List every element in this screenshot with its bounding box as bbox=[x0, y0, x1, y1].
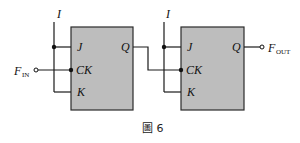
input-label-sub: IN bbox=[22, 71, 29, 79]
flip-flop-2-q-label: Q bbox=[232, 40, 241, 54]
output-label-sub: OUT bbox=[276, 48, 291, 56]
input-terminal-icon bbox=[34, 68, 38, 72]
flip-flop-2-k-label: K bbox=[186, 85, 196, 99]
clock-junction-dot bbox=[179, 68, 183, 72]
flip-flop-2-ck-label: CK bbox=[186, 63, 203, 77]
flip-flop-2-supply-label: I bbox=[165, 7, 171, 21]
flip-flop-1-q-label: Q bbox=[121, 40, 130, 54]
flip-flop-1-supply-label: I bbox=[56, 7, 62, 21]
output-label-main: F bbox=[267, 41, 276, 55]
figure-caption: 圖 6 bbox=[142, 122, 164, 135]
junction-dot bbox=[162, 45, 166, 49]
flip-flop-1-k-label: K bbox=[76, 85, 86, 99]
flip-flop-2: I J CK K Q bbox=[162, 7, 244, 110]
q1-to-ck2-wire bbox=[133, 47, 181, 70]
junction-dot bbox=[52, 45, 56, 49]
input-label-main: F bbox=[13, 64, 22, 78]
output-terminal-icon bbox=[260, 45, 264, 49]
flip-flop-1: I J CK K Q bbox=[52, 7, 133, 110]
output-fout: F OUT bbox=[244, 41, 291, 56]
clock-junction-dot bbox=[69, 68, 73, 72]
flip-flop-2-j-label: J bbox=[187, 40, 193, 54]
flip-flop-1-j-label: J bbox=[77, 40, 83, 54]
jk-flip-flop-circuit: I J CK K Q F IN I J CK K Q F OU bbox=[0, 0, 300, 143]
input-fin: F IN bbox=[13, 64, 73, 79]
flip-flop-1-ck-label: CK bbox=[76, 63, 93, 77]
